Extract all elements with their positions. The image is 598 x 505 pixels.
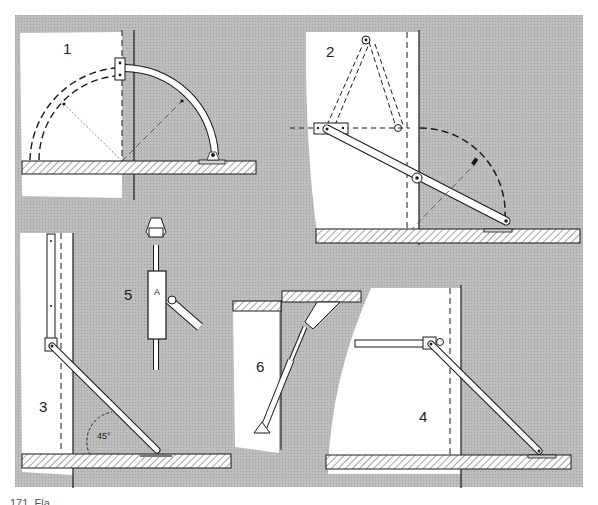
part-label-a: A — [154, 287, 160, 297]
panel-label-6: 6 — [256, 358, 264, 375]
stay-mechanisms-diagram: 1 2 — [0, 0, 598, 505]
panel-label-4: 4 — [419, 408, 427, 425]
panel-label-2: 2 — [326, 43, 334, 60]
panel-label-3: 3 — [39, 398, 47, 415]
panel-label-5: 5 — [124, 286, 132, 303]
angle-label: 45° — [97, 431, 111, 441]
panel-label-1: 1 — [63, 40, 71, 57]
figure-caption: 171. Fla — [10, 496, 50, 505]
